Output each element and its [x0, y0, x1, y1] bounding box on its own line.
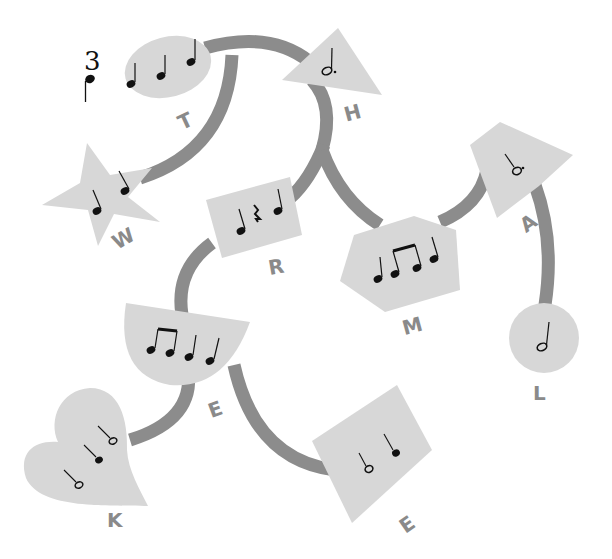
time-signature-top: 3	[84, 46, 101, 76]
node-label-W: W	[108, 222, 139, 254]
node-E2[interactable]: E	[312, 385, 432, 538]
node-label-K: K	[107, 508, 124, 532]
node-label-R: R	[266, 254, 285, 280]
edge-H-trunk	[312, 80, 327, 150]
node-K[interactable]: K	[24, 388, 148, 532]
hexagon-shape	[340, 216, 460, 312]
node-label-E2: E	[395, 511, 420, 539]
node-R[interactable]: R	[206, 177, 302, 280]
node-A[interactable]: A	[470, 122, 573, 237]
edge-M-A	[440, 170, 487, 222]
node-label-H: H	[341, 99, 363, 127]
node-label-L: L	[533, 381, 546, 405]
paths	[130, 42, 548, 470]
time-signature: 3	[84, 46, 101, 102]
circle-shape	[509, 303, 579, 373]
rectangle-shape	[206, 177, 302, 258]
node-label-T: T	[174, 107, 197, 135]
node-L[interactable]: L	[509, 303, 579, 405]
edge-A-L	[535, 185, 548, 305]
ellipse-shape	[118, 27, 219, 108]
star-shape	[42, 143, 160, 246]
node-label-M: M	[399, 312, 424, 340]
node-T[interactable]: T	[118, 27, 219, 135]
node-M[interactable]: M	[340, 216, 460, 340]
edge-T-H	[205, 42, 310, 62]
node-W[interactable]: W	[42, 143, 160, 254]
edge-R-E1	[181, 243, 212, 315]
edge-H-M	[322, 150, 380, 225]
rhythm-diagram: 3 T H W R	[0, 0, 612, 559]
node-label-E1: E	[205, 396, 226, 423]
diamond-shape	[312, 385, 432, 523]
